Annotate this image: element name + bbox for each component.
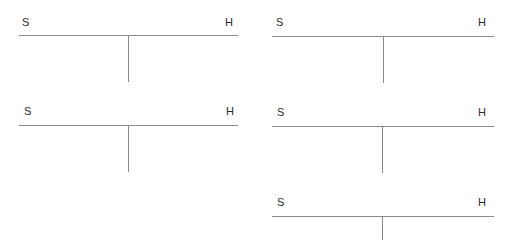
t-account-top-line bbox=[272, 126, 494, 127]
credit-label: H bbox=[225, 16, 233, 28]
credit-label: H bbox=[226, 105, 234, 117]
t-account-divider bbox=[128, 125, 129, 172]
credit-label: H bbox=[478, 16, 486, 28]
debit-label: S bbox=[276, 16, 283, 28]
t-account-divider bbox=[128, 35, 129, 82]
debit-label: S bbox=[277, 196, 284, 208]
t-account-top-line bbox=[272, 216, 494, 217]
credit-label: H bbox=[478, 106, 486, 118]
debit-label: S bbox=[277, 106, 284, 118]
t-account-divider bbox=[382, 126, 383, 173]
credit-label: H bbox=[478, 196, 486, 208]
debit-label: S bbox=[24, 105, 31, 117]
t-account-divider bbox=[383, 36, 384, 83]
debit-label: S bbox=[22, 16, 29, 28]
t-account-divider bbox=[382, 216, 383, 240]
